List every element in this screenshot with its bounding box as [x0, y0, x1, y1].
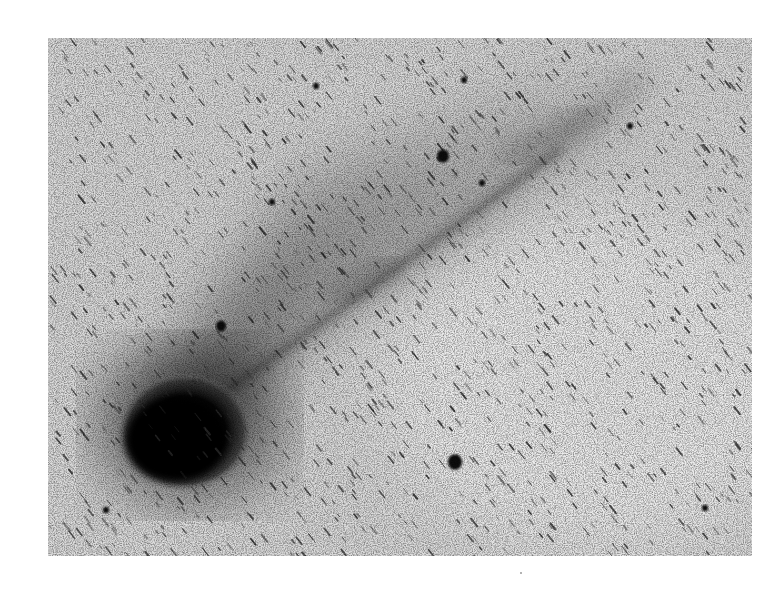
comet-photograph	[48, 38, 752, 556]
sky-field	[48, 38, 752, 556]
stray-speck	[520, 572, 522, 574]
